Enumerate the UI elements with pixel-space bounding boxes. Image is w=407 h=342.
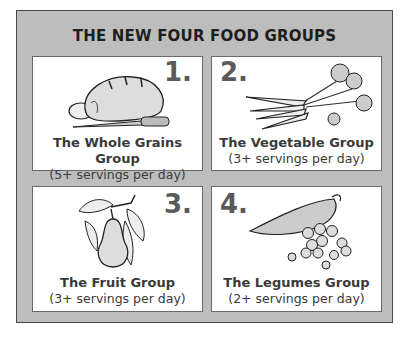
diagram-title: THE NEW FOUR FOOD GROUPS: [17, 27, 392, 45]
carrots-icon: [242, 59, 377, 135]
group-label: The Whole Grains Group (5+ servings per …: [33, 135, 202, 183]
group-servings: (3+ servings per day): [33, 291, 202, 307]
group-name: The Vegetable Group: [212, 135, 381, 151]
food-groups-frame: THE NEW FOUR FOOD GROUPS 1. The Whole Gr…: [16, 10, 393, 323]
panel-legumes: 4. The Legumes Group (2+ servings per da…: [211, 186, 382, 312]
panel-fruit: 3. The Fruit Group (3+ servings per day): [32, 186, 203, 312]
pear-icon: [75, 191, 155, 273]
group-servings: (2+ servings per day): [212, 291, 381, 307]
panel-whole-grains: 1. The Whole Grains Group (5+ servings p…: [32, 56, 203, 171]
group-number: 4.: [220, 189, 248, 219]
group-name: The Whole Grains Group: [33, 135, 202, 167]
group-label: The Fruit Group (3+ servings per day): [33, 275, 202, 307]
panel-vegetable: 2. The Vegetable Group (3+ servings per …: [211, 56, 382, 171]
group-number: 3.: [164, 189, 192, 219]
group-servings: (3+ servings per day): [212, 151, 381, 167]
group-name: The Fruit Group: [33, 275, 202, 291]
group-name: The Legumes Group: [212, 275, 381, 291]
pea-pod-icon: [248, 191, 368, 273]
group-label: The Vegetable Group (3+ servings per day…: [212, 135, 381, 167]
group-label: The Legumes Group (2+ servings per day): [212, 275, 381, 307]
group-servings: (5+ servings per day): [33, 167, 202, 183]
bread-loaf-icon: [63, 69, 173, 131]
